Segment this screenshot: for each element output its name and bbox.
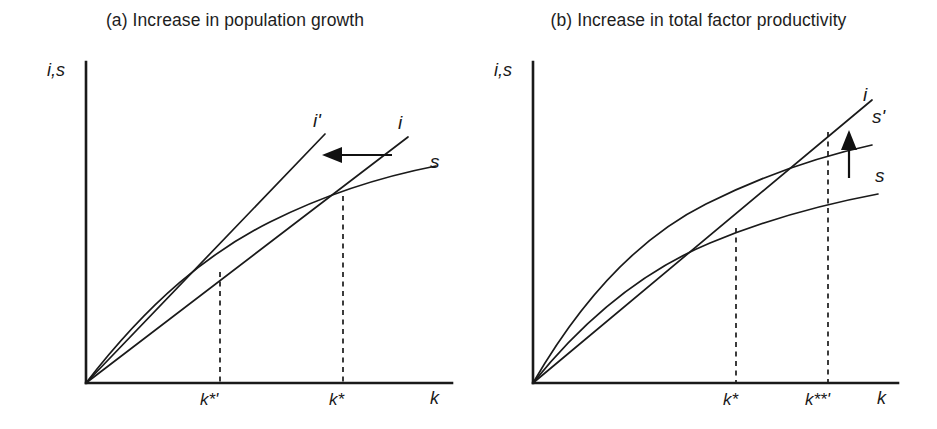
panel-b-curve-s	[533, 194, 878, 383]
panel-b-label-s-prime: s'	[872, 106, 885, 128]
panel-b-label-i: i	[863, 84, 867, 106]
panel-a-x-axis-label: k	[430, 388, 439, 409]
panel-a-y-axis-label: i,s	[47, 60, 65, 81]
panel-a-shift-arrow-head	[322, 147, 342, 163]
panel-a-curve-i-prime	[86, 134, 325, 383]
panel-b-total-factor-productivity: (b) Increase in total factor productivit…	[460, 0, 937, 429]
panel-a-label-s: s	[430, 151, 440, 173]
panel-b-y-axis-label: i,s	[494, 60, 512, 81]
panel-a-label-i-prime: i'	[313, 110, 321, 132]
panel-a-tick-kstar: k*	[329, 390, 344, 410]
panel-a-curve-s	[86, 166, 436, 383]
solow-model-figure: (a) Increase in population growth i,s k …	[0, 0, 937, 429]
panel-b-label-s: s	[875, 165, 885, 187]
panel-b-plot	[460, 0, 937, 429]
panel-a-population-growth: (a) Increase in population growth i,s k …	[0, 0, 470, 429]
panel-a-label-i: i	[398, 112, 402, 134]
panel-b-x-axis-label: k	[877, 388, 886, 409]
panel-a-tick-kstarprime: k*'	[200, 390, 218, 410]
panel-a-curve-i	[86, 137, 408, 383]
panel-b-tick-kstar: k*	[723, 390, 738, 410]
panel-a-plot	[0, 0, 470, 429]
panel-b-shift-arrow-head	[841, 130, 857, 150]
panel-b-curve-i	[533, 100, 872, 383]
panel-b-curve-s-prime	[533, 145, 872, 383]
panel-b-tick-kstarstarprime: k**'	[805, 390, 830, 410]
